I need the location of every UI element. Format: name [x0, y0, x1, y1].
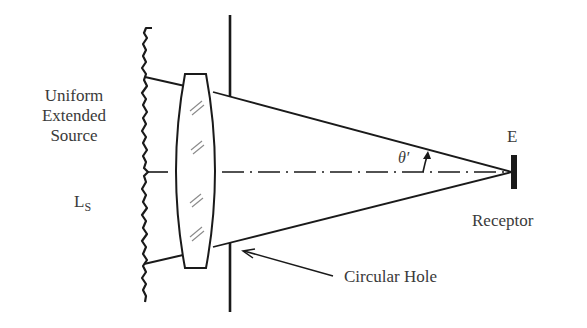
source-label-line2: Extended	[24, 106, 124, 126]
irradiance-label: E	[507, 127, 517, 147]
ray-top-source-to-lens	[145, 77, 185, 86]
ray-bottom-source-to-lens	[144, 255, 183, 264]
radiance-label: LS	[74, 192, 91, 213]
radiance-subscript: S	[84, 200, 91, 214]
source-label: Uniform Extended Source	[24, 86, 124, 146]
angle-arrow-icon	[423, 151, 431, 172]
radiance-symbol: L	[74, 192, 84, 211]
pointer-arrow-icon	[243, 249, 333, 276]
angle-label: θ′	[398, 148, 409, 168]
aperture-label: Circular Hole	[344, 267, 437, 287]
optical-diagram	[0, 0, 587, 328]
ray-top-lens-to-receptor	[213, 92, 512, 172]
receptor-label: Receptor	[472, 211, 533, 231]
source-label-line1: Uniform	[24, 86, 124, 106]
source-label-line3: Source	[24, 126, 124, 146]
lens	[176, 74, 215, 268]
receptor	[511, 155, 517, 189]
extended-source-line	[142, 28, 152, 302]
ray-bottom-lens-to-receptor	[213, 172, 512, 247]
